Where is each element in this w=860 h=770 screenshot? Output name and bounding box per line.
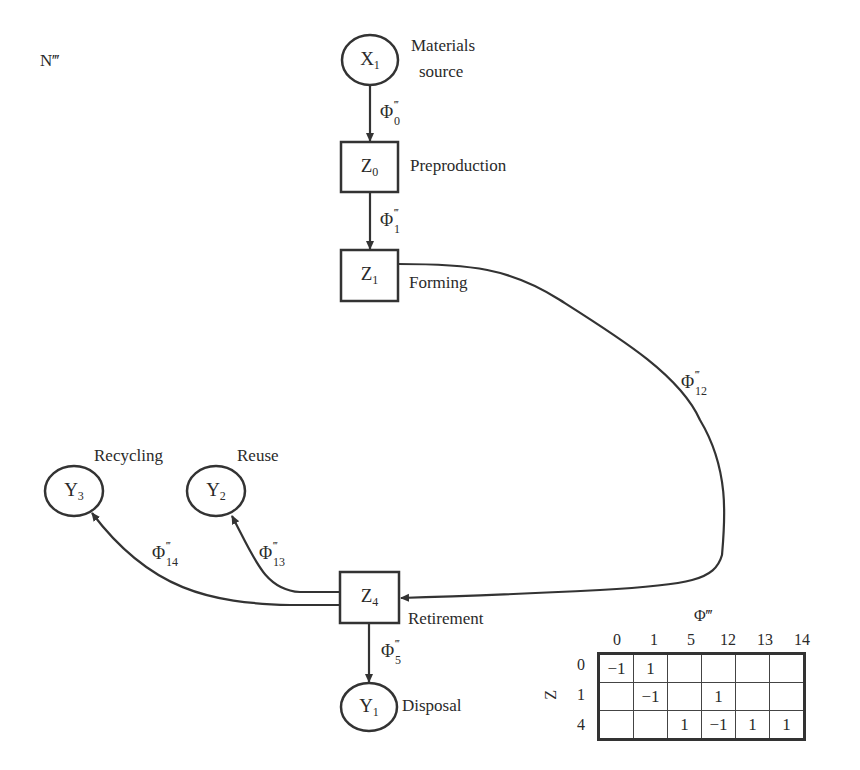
node-y2-label: Reuse xyxy=(237,447,279,466)
matrix-cell xyxy=(668,654,702,683)
matrix-cell: 1 xyxy=(702,683,736,711)
flow-phi5-label: Φ‴5 xyxy=(381,641,394,662)
phi-symbol: Φ xyxy=(380,102,393,122)
node-y1-label: Disposal xyxy=(402,697,462,716)
node-z4-index: 4 xyxy=(372,595,378,609)
phi-prime: ‴ xyxy=(394,98,399,110)
matrix-cell xyxy=(770,683,805,711)
node-y2[interactable]: Y2 xyxy=(187,479,245,504)
matrix-cell: 1 xyxy=(668,711,702,740)
node-x1-label-line2: source xyxy=(419,63,463,82)
flow-phi13-arrow xyxy=(232,516,340,592)
phi-prime: ‴ xyxy=(273,539,278,551)
node-y2-index: 2 xyxy=(220,489,226,503)
matrix-row-header: 1 xyxy=(577,686,585,704)
matrix-cell xyxy=(770,654,805,683)
node-z0[interactable]: Z0 xyxy=(341,155,398,180)
network-label: N‴ xyxy=(40,52,59,71)
node-z4-label: Retirement xyxy=(408,610,484,629)
matrix-cell xyxy=(599,711,634,740)
matrix-cell xyxy=(634,711,668,740)
matrix-cell xyxy=(668,683,702,711)
node-z1[interactable]: Z1 xyxy=(341,263,398,288)
matrix-col-header: 12 xyxy=(710,631,746,649)
matrix-cell xyxy=(736,654,770,683)
phi-index: 5 xyxy=(395,653,401,668)
matrix-col-header: 0 xyxy=(599,631,635,649)
phi-prime: ‴ xyxy=(166,539,171,551)
incidence-matrix: −1 1 −1 1 1 −1 1 1 xyxy=(597,652,806,741)
node-y3-symbol: Y xyxy=(64,479,78,500)
node-z1-index: 1 xyxy=(372,273,378,287)
node-z0-index: 0 xyxy=(372,165,378,179)
phi-index: 13 xyxy=(273,555,285,570)
flow-phi13-label: Φ‴13 xyxy=(259,543,272,564)
phi-prime: ‴ xyxy=(394,206,399,218)
matrix-cell: 1 xyxy=(634,654,668,683)
phi-symbol: Φ xyxy=(259,543,272,563)
phi-index: 12 xyxy=(695,384,707,399)
node-x1[interactable]: X1 xyxy=(342,48,398,73)
matrix-row-header: 4 xyxy=(577,716,585,734)
matrix-cell xyxy=(702,654,736,683)
matrix-col-header: 13 xyxy=(747,631,783,649)
phi-symbol: Φ xyxy=(152,543,165,563)
node-y1[interactable]: Y1 xyxy=(341,695,397,720)
matrix-cell: 1 xyxy=(736,711,770,740)
node-x1-label-line1: Materials xyxy=(411,37,475,56)
flow-phi12-arrow xyxy=(398,264,724,598)
matrix-cell xyxy=(599,683,634,711)
phi-prime: ‴ xyxy=(395,637,400,649)
matrix-col-header: 14 xyxy=(784,631,820,649)
phi-prime: ‴ xyxy=(695,368,700,380)
flow-phi14-label: Φ‴14 xyxy=(152,543,165,564)
matrix-cell xyxy=(736,683,770,711)
node-z4[interactable]: Z4 xyxy=(340,585,399,610)
node-y3-label: Recycling xyxy=(94,447,163,466)
flow-phi0-label: Φ‴0 xyxy=(380,102,393,123)
matrix-cell: −1 xyxy=(702,711,736,740)
node-y3[interactable]: Y3 xyxy=(45,479,103,504)
node-z1-symbol: Z xyxy=(361,263,373,284)
matrix-col-header: 1 xyxy=(636,631,672,649)
matrix-row: −1 1 xyxy=(599,654,805,683)
phi-index: 1 xyxy=(394,222,400,237)
matrix-row-axis-label: Z xyxy=(542,690,560,700)
matrix-cell: −1 xyxy=(599,654,634,683)
node-z0-symbol: Z xyxy=(361,155,373,176)
matrix-cell: 1 xyxy=(770,711,805,740)
node-z0-label: Preproduction xyxy=(410,157,506,176)
node-y2-symbol: Y xyxy=(206,479,220,500)
node-y3-index: 3 xyxy=(78,489,84,503)
phi-symbol: Φ xyxy=(381,641,394,661)
node-y1-index: 1 xyxy=(373,705,379,719)
phi-index: 0 xyxy=(394,114,400,129)
matrix-row: −1 1 xyxy=(599,683,805,711)
node-x1-symbol: X xyxy=(360,48,374,69)
matrix-col-header: 5 xyxy=(673,631,709,649)
phi-symbol: Φ xyxy=(681,372,694,392)
node-y1-symbol: Y xyxy=(359,695,373,716)
matrix-row-header: 0 xyxy=(577,656,585,674)
node-x1-index: 1 xyxy=(374,58,380,72)
matrix-row: 1 −1 1 1 xyxy=(599,711,805,740)
phi-index: 14 xyxy=(166,555,178,570)
phi-symbol: Φ xyxy=(380,210,393,230)
node-z4-symbol: Z xyxy=(361,585,373,606)
node-z1-label: Forming xyxy=(409,274,468,293)
matrix-cell: −1 xyxy=(634,683,668,711)
flow-phi12-label: Φ‴12 xyxy=(681,372,694,393)
matrix-title: Φ‴ xyxy=(694,607,712,625)
flow-phi1-label: Φ‴1 xyxy=(380,210,393,231)
